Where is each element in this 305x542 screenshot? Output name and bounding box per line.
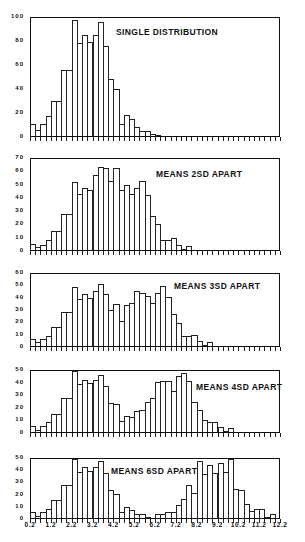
x-tick xyxy=(56,433,57,437)
x-tick-label: 6.2 xyxy=(150,521,161,528)
x-tick xyxy=(145,137,146,141)
x-tick xyxy=(202,137,203,141)
x-tick xyxy=(61,251,62,255)
x-tick xyxy=(124,519,125,523)
x-tick xyxy=(228,137,229,141)
x-tick xyxy=(103,251,104,255)
x-tick xyxy=(254,347,255,351)
x-tick xyxy=(259,433,260,437)
y-tick-label: 40 xyxy=(2,466,24,472)
x-tick xyxy=(124,251,125,255)
x-tick xyxy=(150,137,151,141)
x-tick xyxy=(124,347,125,351)
y-tick-label: 30 xyxy=(2,478,24,484)
x-tick xyxy=(207,519,208,523)
x-tick-marks xyxy=(30,137,280,141)
histogram-bar xyxy=(228,428,234,432)
x-tick xyxy=(275,433,276,437)
x-tick xyxy=(223,347,224,351)
x-tick xyxy=(108,251,109,255)
y-tick-label: 30 xyxy=(2,306,24,312)
x-tick xyxy=(87,433,88,437)
panel-title: MEANS 2SD APART xyxy=(156,169,242,179)
x-tick xyxy=(238,433,239,437)
panel-title: SINGLE DISTRIBUTION xyxy=(116,27,218,37)
x-tick-marks xyxy=(30,251,280,255)
x-tick xyxy=(238,347,239,351)
x-tick xyxy=(82,137,83,141)
x-tick xyxy=(207,433,208,437)
x-tick xyxy=(51,251,52,255)
x-tick xyxy=(160,137,161,141)
x-tick xyxy=(275,251,276,255)
y-tick-label: 50 xyxy=(2,366,24,372)
x-tick-label: 1.2 xyxy=(45,521,56,528)
x-tick xyxy=(61,433,62,437)
x-tick xyxy=(77,251,78,255)
y-tick-label: 0 xyxy=(2,343,24,349)
x-tick xyxy=(233,137,234,141)
y-tick-label: 0 xyxy=(2,515,24,521)
x-tick xyxy=(35,137,36,141)
x-tick xyxy=(191,433,192,437)
x-tick xyxy=(77,433,78,437)
x-tick-label: 12.2 xyxy=(272,521,287,528)
x-tick xyxy=(119,347,120,351)
x-tick xyxy=(249,433,250,437)
x-tick xyxy=(270,433,271,437)
x-tick xyxy=(223,137,224,141)
x-tick xyxy=(82,347,83,351)
x-tick xyxy=(87,347,88,351)
x-tick xyxy=(244,433,245,437)
x-tick xyxy=(77,137,78,141)
caption-cutoff xyxy=(0,534,305,542)
x-tick xyxy=(181,137,182,141)
x-tick xyxy=(249,519,250,523)
x-tick xyxy=(46,433,47,437)
x-tick xyxy=(244,251,245,255)
y-tick-label: 20 xyxy=(2,109,24,115)
x-tick xyxy=(202,433,203,437)
x-tick xyxy=(82,433,83,437)
x-tick xyxy=(113,433,114,437)
histogram-bar xyxy=(186,246,192,250)
x-tick xyxy=(207,137,208,141)
x-tick xyxy=(103,519,104,523)
x-tick xyxy=(191,137,192,141)
x-tick xyxy=(264,251,265,255)
x-tick xyxy=(72,137,73,141)
x-tick xyxy=(249,347,250,351)
x-tick xyxy=(254,433,255,437)
x-tick xyxy=(176,251,177,255)
x-tick xyxy=(108,137,109,141)
histogram-bar xyxy=(145,517,151,518)
y-tick-label: 20 xyxy=(2,404,24,410)
x-tick-label: 2.2 xyxy=(66,521,77,528)
x-tick xyxy=(259,137,260,141)
x-tick xyxy=(139,433,140,437)
x-tick xyxy=(171,347,172,351)
x-tick xyxy=(228,251,229,255)
x-tick xyxy=(218,137,219,141)
x-tick xyxy=(280,347,281,351)
panel-title: MEANS 4SD APART xyxy=(196,382,282,392)
x-tick xyxy=(61,347,62,351)
x-tick xyxy=(171,433,172,437)
x-tick xyxy=(40,433,41,437)
x-tick-label: 4.2 xyxy=(108,521,119,528)
x-tick xyxy=(181,433,182,437)
x-tick xyxy=(259,251,260,255)
x-tick xyxy=(46,137,47,141)
x-tick xyxy=(134,251,135,255)
x-tick xyxy=(218,433,219,437)
x-tick xyxy=(228,433,229,437)
x-tick xyxy=(40,519,41,523)
x-tick xyxy=(119,433,120,437)
x-tick xyxy=(139,347,140,351)
y-tick-label: 20 xyxy=(2,318,24,324)
y-tick-label: 40 xyxy=(2,379,24,385)
x-tick xyxy=(87,251,88,255)
x-tick xyxy=(275,137,276,141)
x-tick xyxy=(113,347,114,351)
x-tick xyxy=(139,137,140,141)
